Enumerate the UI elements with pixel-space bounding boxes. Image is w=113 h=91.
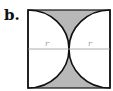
geometry-diagram: r r	[0, 0, 113, 91]
